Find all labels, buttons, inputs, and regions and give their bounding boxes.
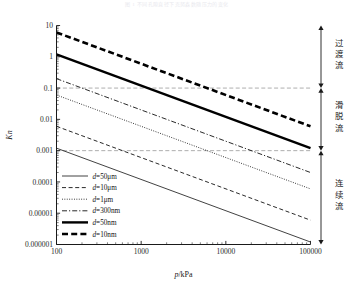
series-line-d10nm [57,32,311,126]
regime-label-continuum-flow: 流 [335,201,344,211]
y-tick-label: 0.001 [36,146,53,155]
x-tick-label: 100 [51,247,63,256]
y-tick-label: 0.0001 [32,178,53,187]
legend-label-d50nm: d=50nm [93,219,117,227]
regime-label-continuum-flow: 续 [335,190,344,200]
x-tick-label: 100000 [299,247,322,256]
arrow-down-icon-continuum-flow [318,240,323,245]
regime-label-transition-flow: 流 [335,60,344,70]
legend-label-d50um: d=50μm [93,173,118,181]
regime-label-slip-flow: 流 [335,123,344,133]
x-axis-label: p/kPa [173,270,193,279]
y-tick-label: 0.01 [40,115,53,124]
series-line-d50nm [57,54,311,148]
legend-label-d300nm: d=300nm [93,207,121,215]
x-tick-label: 10000 [216,247,235,256]
arrow-down-icon-transition-flow [318,83,323,88]
y-tick-label: 0.000001 [25,240,53,249]
regime-label-continuum-flow: 连 [335,178,344,188]
y-axis-label: Kn [5,130,14,140]
regime-label-transition-flow: 过 [335,38,344,48]
legend-label-d10nm: d=10nm [93,231,117,239]
y-tick-label: 0.00001 [29,209,54,218]
regime-label-slip-flow: 滑 [335,100,343,110]
legend-label-d1um: d=1μm [93,196,114,204]
figure-panel: 图 1 不同孔隙直径下克努森数随压力的变化 1010.10.010.0010.0… [0,0,354,283]
legend-label-d10um: d=10μm [93,184,118,192]
arrow-down-icon-slip-flow [318,146,323,151]
arrow-up-icon-continuum-flow [318,151,323,156]
regime-label-transition-flow: 渡 [335,49,344,59]
knudsen-number-chart: 1010.10.010.0010.00010.000010.0000011001… [0,0,354,283]
regime-label-slip-flow: 脱 [335,111,344,121]
series-line-d300nm [57,79,311,173]
x-tick-label: 1000 [134,247,149,256]
y-tick-label: 1 [49,52,53,61]
arrow-up-icon-transition-flow [318,26,323,31]
arrow-up-icon-slip-flow [318,88,323,93]
y-tick-label: 0.1 [44,84,54,93]
y-tick-label: 10 [46,21,54,30]
